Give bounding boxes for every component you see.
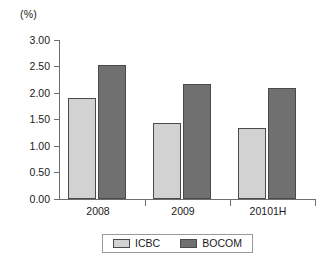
chart-legend: ICBC BOCOM [102,234,253,253]
bar-icbc-2008 [68,98,96,199]
y-axis-tick-label: 0.00 [10,194,50,204]
bar-bocom-2008 [98,65,126,199]
bar-icbc-20101h [238,128,266,200]
plot-area [60,40,316,199]
y-axis-tick-label: 0.50 [10,167,50,177]
bar-bocom-2009 [183,84,211,199]
legend-label: ICBC [135,238,160,249]
bar-chart-figure: (%) 3.00 2.50 2.00 1.50 1.00 0.50 0.00 2… [0,0,334,269]
x-axis-tick [145,200,146,206]
y-axis-tick-label: 3.00 [10,35,50,45]
legend-entry-bocom: BOCOM [180,238,242,249]
bar-bocom-20101h [268,88,296,199]
y-axis-tick-label: 1.00 [10,141,50,151]
x-axis-category-label: 2008 [68,205,128,217]
legend-swatch-icon [113,239,130,248]
x-axis-line [59,199,316,200]
x-axis-tick [230,200,231,206]
y-axis-tick-label: 1.50 [10,114,50,124]
legend-label: BOCOM [202,238,242,249]
y-axis-tick [54,199,60,200]
x-axis-category-label: 2009 [153,205,213,217]
legend-entry-icbc: ICBC [113,238,160,249]
y-axis-unit-label: (%) [20,8,37,20]
legend-swatch-icon [180,239,197,248]
y-axis-tick-label: 2.00 [10,88,50,98]
x-axis-category-label: 20101H [238,205,298,217]
y-axis-tick-label: 2.50 [10,61,50,71]
bar-icbc-2009 [153,123,181,199]
x-axis-tick [315,200,316,206]
